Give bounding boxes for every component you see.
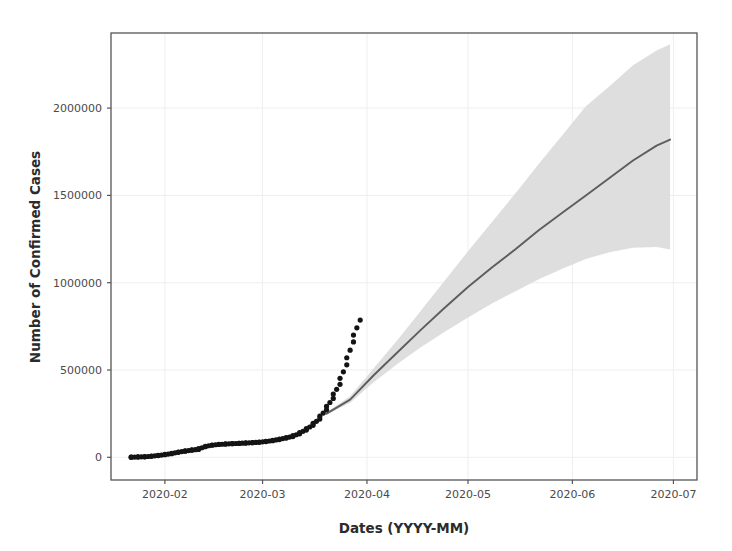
- svg-text:2020-06: 2020-06: [549, 488, 595, 501]
- confidence-band: [327, 44, 671, 415]
- y-axis-ticks: 0500000100000015000002000000: [53, 102, 111, 464]
- forecast-chart-figure: 0500000100000015000002000000 2020-022020…: [0, 0, 732, 551]
- svg-text:0: 0: [95, 451, 102, 464]
- chart-canvas: 0500000100000015000002000000 2020-022020…: [0, 0, 732, 551]
- svg-text:1000000: 1000000: [53, 277, 102, 290]
- observed-data-points: [129, 317, 363, 459]
- svg-text:2000000: 2000000: [53, 102, 102, 115]
- y-axis-title: Number of Confirmed Cases: [27, 151, 43, 363]
- x-axis-ticks: 2020-022020-032020-042020-052020-062020-…: [142, 480, 697, 501]
- x-axis-title: Dates (YYYY-MM): [339, 520, 470, 536]
- svg-text:2020-05: 2020-05: [445, 488, 491, 501]
- svg-text:500000: 500000: [60, 364, 102, 377]
- svg-text:2020-03: 2020-03: [240, 488, 286, 501]
- svg-text:2020-04: 2020-04: [344, 488, 390, 501]
- svg-text:2020-02: 2020-02: [142, 488, 188, 501]
- svg-text:2020-07: 2020-07: [650, 488, 696, 501]
- svg-text:1500000: 1500000: [53, 189, 102, 202]
